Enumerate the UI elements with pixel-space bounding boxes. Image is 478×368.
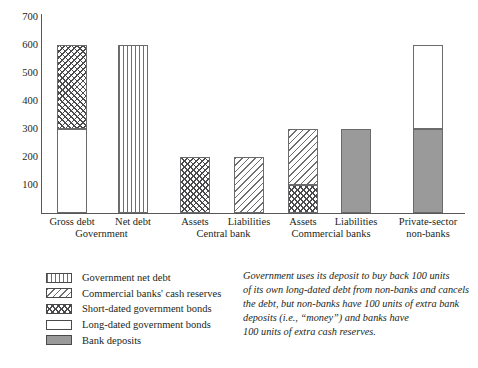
bar-private-sector-non-banks [413,45,443,213]
legend-label: Long-dated government bonds [82,319,211,330]
legend-label: Short-dated government bonds [82,303,211,314]
chart-legend: Government net debt Commercial banks' ca… [46,270,246,348]
segment-bank-deposits [341,129,371,213]
annotation-line-5: 100 units of extra cash reserves. [243,325,475,339]
legend-item-commercial-banks-cash-reserves: Commercial banks' cash reserves [46,286,246,302]
legend-label: Bank deposits [82,335,141,346]
x-group-label-central-bank: Central bank [168,228,279,241]
segment-long-dated-government-bonds [413,45,443,129]
x-group-label-commercial-banks: Commercial banks [276,228,386,241]
x-label-non-banks-line2: non-banks [393,228,463,241]
x-axis-line [41,213,465,214]
segment-government-net-debt [118,45,148,213]
annotation-line-1: Government uses its deposit to buy back … [243,269,475,283]
bar-commercial-banks-liabilities [341,129,371,213]
x-label-non-banks-line1: Private-sector [393,216,463,229]
legend-swatch-solid-white-icon [46,320,72,330]
annotation-line-2: of its own long-dated debt from non-bank… [243,283,475,297]
bar-gross-debt [57,45,87,213]
legend-item-bank-deposits: Bank deposits [46,332,246,348]
bars-layer [0,0,478,213]
x-label-commercial-liabilities: Liabilities [326,216,386,229]
annotation-line-4: deposits (i.e., “money”) and banks have [243,311,475,325]
legend-swatch-crosshatch-icon [46,304,72,314]
bar-central-bank-assets [180,157,210,213]
legend-item-government-net-debt: Government net debt [46,270,246,286]
x-group-label-government: Government [42,228,161,241]
x-label-gross-debt: Gross debt [42,216,102,229]
segment-commercial-banks-cash-reserves [288,129,318,185]
legend-item-short-dated-government-bonds: Short-dated government bonds [46,301,246,317]
annotation-line-3: the debt, but non-banks have 100 units o… [243,297,475,311]
segment-bank-deposits [413,129,443,213]
segment-short-dated-government-bonds [180,157,210,213]
legend-label: Government net debt [82,272,171,283]
x-label-central-bank-liabilities: Liabilities [219,216,279,229]
legend-label: Commercial banks' cash reserves [82,288,221,299]
legend-swatch-diagonal-stripes-icon [46,288,72,298]
legend-swatch-solid-gray-icon [46,335,72,345]
segment-commercial-banks-cash-reserves [234,157,264,213]
x-label-central-bank-assets: Assets [168,216,222,229]
legend-swatch-vertical-stripes-icon [46,273,72,283]
x-label-commercial-assets: Assets [276,216,330,229]
segment-short-dated-government-bonds [57,45,87,129]
x-label-net-debt: Net debt [105,216,161,229]
bar-chart: 700 600 500 400 300 200 100 [0,0,478,258]
bar-central-bank-liabilities [234,157,264,213]
legend-item-long-dated-government-bonds: Long-dated government bonds [46,317,246,333]
bar-commercial-banks-assets [288,129,318,213]
segment-long-dated-government-bonds [57,129,87,213]
segment-short-dated-government-bonds [288,185,318,213]
bar-net-debt [118,45,148,213]
chart-annotation: Government uses its deposit to buy back … [243,269,475,339]
